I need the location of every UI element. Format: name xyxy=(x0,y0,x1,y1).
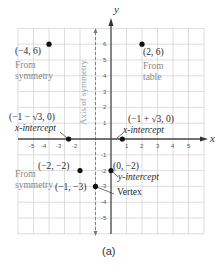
note-from-symmetry-top-2: symmetry xyxy=(15,72,53,82)
x-tick: -4 xyxy=(41,143,46,149)
x-tick: 4 xyxy=(171,143,174,149)
note-from-symmetry-top-1: From xyxy=(15,61,36,71)
point-vertex xyxy=(93,184,98,189)
x-axis-label: x xyxy=(210,133,215,144)
axis-of-symmetry-label: Axis of symmetry xyxy=(79,60,88,125)
y-tick: 5 xyxy=(103,57,106,63)
note-y-intercept: y-intercept xyxy=(118,173,159,183)
y-tick: -1 xyxy=(101,152,106,158)
note-from-symmetry-bottom-2: symmetry xyxy=(15,181,53,191)
point-label-x-intercept-right: (−1 + √3, 0) xyxy=(128,115,174,125)
y-tick: -4 xyxy=(101,199,106,205)
note-from-table-1: From xyxy=(143,62,164,72)
point-neg2-neg2 xyxy=(77,168,82,173)
note-from-table-2: table xyxy=(143,73,161,83)
y-tick: 6 xyxy=(103,41,106,47)
y-axis-label: y xyxy=(114,4,119,15)
y-axis-arrow xyxy=(109,18,114,26)
y-tick: 4 xyxy=(103,73,106,79)
y-tick: -3 xyxy=(101,183,106,189)
x-tick: -3 xyxy=(56,143,61,149)
x-tick: -2 xyxy=(72,143,77,149)
point-label-0-neg2: (0, −2) xyxy=(113,162,139,172)
y-tick: 3 xyxy=(103,89,106,95)
x-tick: 3 xyxy=(156,143,159,149)
x-tick: 2 xyxy=(140,143,143,149)
point-label-x-intercept-left: (−1 − √3, 0) xyxy=(9,113,55,123)
point-label-2-6: (2, 6) xyxy=(143,48,164,58)
x-tick: -5 xyxy=(29,143,34,149)
graph-canvas xyxy=(0,0,220,272)
note-x-intercept-left: x-intercept xyxy=(15,124,56,134)
y-tick: -2 xyxy=(101,168,106,174)
point-label-vertex: (−1, −3) xyxy=(55,183,86,193)
point-label-neg4-6: (−4, 6) xyxy=(15,47,41,57)
y-tick: 2 xyxy=(103,104,106,110)
y-tick: 1 xyxy=(103,120,106,126)
x-tick: 5 xyxy=(187,143,190,149)
point-neg4-6 xyxy=(46,42,51,47)
note-x-intercept-right: x-intercept xyxy=(123,126,164,136)
point-x-intercept-left xyxy=(66,136,71,141)
axis-of-symmetry-line xyxy=(94,28,98,236)
note-vertex: Vertex xyxy=(117,188,142,198)
point-x-intercept-right xyxy=(120,136,125,141)
point-label-neg2-neg2: (−2, −2) xyxy=(38,162,69,172)
x-tick: 1 xyxy=(125,143,128,149)
figure-caption: (a) xyxy=(102,245,115,257)
y-tick: -5 xyxy=(101,215,106,221)
note-from-symmetry-bottom-1: From xyxy=(15,170,36,180)
